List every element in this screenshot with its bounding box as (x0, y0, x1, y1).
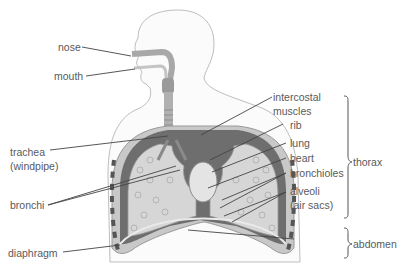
larynx (162, 78, 174, 94)
label-lung: lung (290, 137, 310, 149)
label-bronchi: bronchi (10, 199, 44, 211)
label-intercostal: intercostal (273, 91, 321, 103)
label-mouth: mouth (54, 70, 83, 82)
label-bronchioles: bronchioles (290, 167, 344, 179)
label-thorax: thorax (353, 156, 382, 168)
label-muscles: muscles (273, 105, 312, 117)
label-trachea: trachea (10, 146, 45, 158)
label-heart: heart (290, 152, 314, 164)
heart-shape (189, 162, 217, 202)
label-air-sacs: (air sacs) (290, 199, 333, 211)
label-rib: rib (290, 119, 302, 131)
label-alveoli: alveoli (290, 185, 320, 197)
label-nose: nose (58, 41, 81, 53)
label-diaphragm: diaphragm (8, 247, 58, 259)
label-abdomen: abdomen (353, 238, 397, 250)
thorax-brace (344, 96, 352, 218)
abdomen-brace (344, 228, 352, 258)
label-windpipe: (windpipe) (10, 160, 58, 172)
